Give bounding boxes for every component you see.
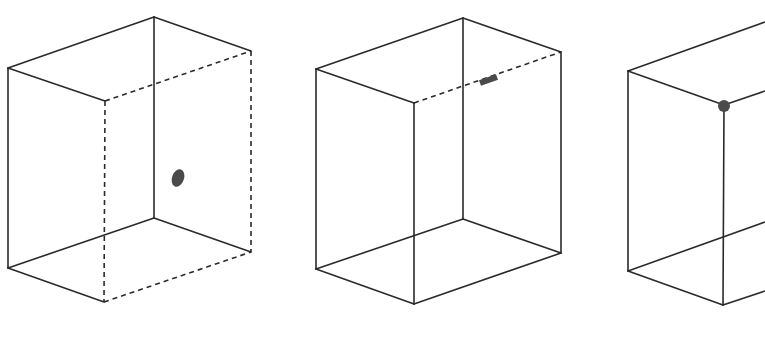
box2-top-back-right-edge bbox=[463, 18, 561, 52]
box2-bottom-front-right-edge bbox=[414, 253, 561, 304]
box1-top-front-right-edge bbox=[105, 51, 251, 101]
box1-bottom-front-right-edge bbox=[104, 252, 251, 302]
box-3-vertex-highlight bbox=[628, 22, 765, 305]
box-1-face-highlight bbox=[8, 17, 251, 302]
edge-segment-marker-icon bbox=[480, 77, 497, 83]
box1-bottom-back-right-edge bbox=[154, 218, 251, 252]
three-box-diagram bbox=[0, 0, 765, 337]
box1-top-back-left-edge bbox=[8, 17, 154, 68]
box1-bottom-back-left-edge bbox=[8, 218, 154, 268]
box3-top-front-left-edge bbox=[628, 71, 724, 105]
box1-top-back-right-edge bbox=[154, 17, 251, 51]
box2-top-front-left-edge bbox=[316, 69, 414, 103]
box2-bottom-front-left-edge bbox=[316, 269, 414, 304]
box3-front-vertical-edge bbox=[723, 105, 724, 305]
box3-top-front-right-edge bbox=[724, 91, 765, 105]
box2-bottom-back-right-edge bbox=[463, 219, 561, 253]
box1-top-front-left-edge bbox=[8, 68, 105, 101]
vertex-point-marker-icon bbox=[718, 100, 730, 112]
box-2-edge-highlight bbox=[316, 18, 561, 304]
box3-bottom-front-right-edge bbox=[723, 291, 765, 305]
box1-bottom-front-left-edge bbox=[8, 268, 104, 302]
face-point-marker-icon bbox=[169, 167, 186, 188]
box3-bottom-back-left-edge bbox=[628, 222, 765, 271]
box2-top-back-left-edge bbox=[316, 18, 463, 69]
box3-bottom-front-left-edge bbox=[628, 271, 723, 305]
box1-front-vertical-edge bbox=[104, 101, 105, 302]
box3-top-back-left-edge bbox=[628, 22, 765, 71]
box2-bottom-back-left-edge bbox=[316, 219, 463, 269]
